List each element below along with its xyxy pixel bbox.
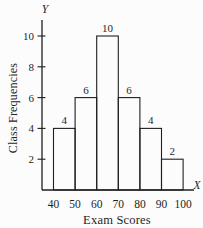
bar-value-label: 4 xyxy=(62,114,68,126)
x-tick-label: 70 xyxy=(113,198,125,210)
bar-value-label: 2 xyxy=(170,145,176,157)
y-tick-label: 8 xyxy=(29,61,35,73)
histogram-plot: 4610642246810405060708090100 xyxy=(0,0,203,228)
x-tick-label: 40 xyxy=(48,198,60,210)
x-tick-label: 60 xyxy=(91,198,103,210)
x-tick-label: 90 xyxy=(156,198,168,210)
bar-70-80 xyxy=(118,98,140,190)
bar-value-label: 6 xyxy=(126,84,132,96)
x-axis-title: Exam Scores xyxy=(83,213,151,228)
bar-value-label: 4 xyxy=(148,114,154,126)
x-axis-letter: X xyxy=(193,179,200,191)
bar-60-70 xyxy=(97,36,119,190)
bar-80-90 xyxy=(140,128,162,190)
y-tick-label: 4 xyxy=(29,122,35,134)
bar-40-50 xyxy=(54,128,76,190)
y-tick-label: 6 xyxy=(29,92,35,104)
bar-50-60 xyxy=(75,98,97,190)
bar-value-label: 6 xyxy=(83,84,89,96)
histogram-figure: Y Class Frequencies 46106422468104050607… xyxy=(0,0,203,228)
x-tick-label: 80 xyxy=(134,198,146,210)
bar-90-100 xyxy=(162,159,184,190)
y-tick-label: 10 xyxy=(23,30,35,42)
x-tick-label: 100 xyxy=(174,198,192,210)
y-tick-label: 2 xyxy=(29,153,35,165)
x-tick-label: 50 xyxy=(69,198,81,210)
bar-value-label: 10 xyxy=(102,22,114,34)
